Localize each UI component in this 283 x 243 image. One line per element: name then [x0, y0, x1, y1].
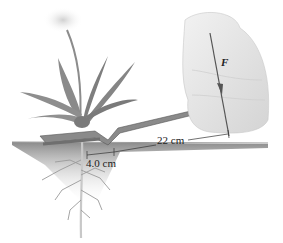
long-arm-label: 22 cm — [157, 134, 184, 146]
weed-puller-diagram — [0, 0, 283, 243]
plant — [20, 7, 138, 128]
short-arm-label: 4.0 cm — [86, 157, 116, 169]
soil — [12, 142, 268, 205]
force-label: F — [221, 56, 228, 68]
